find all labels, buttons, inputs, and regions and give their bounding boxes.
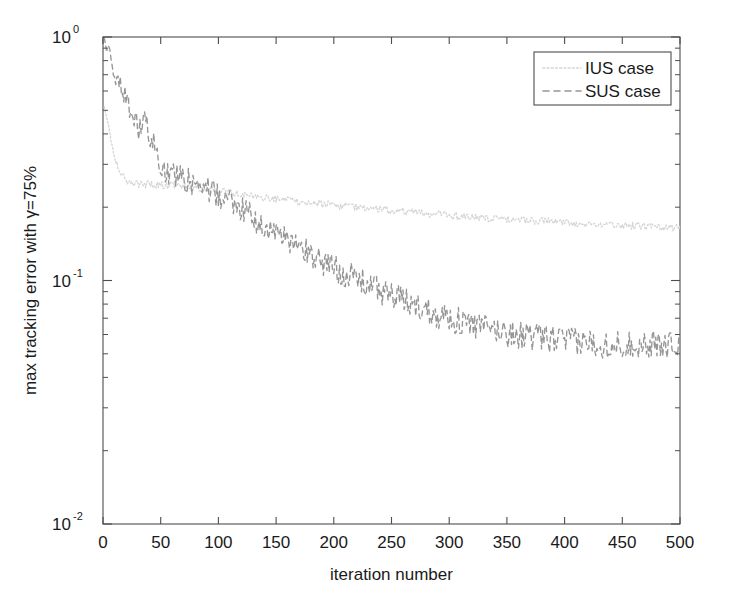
svg-text:-1: -1 <box>73 267 83 279</box>
svg-text:10: 10 <box>52 515 71 534</box>
y-axis-title: max tracking error with γ=75% <box>21 166 40 395</box>
figure-container: 05010015020025030035040045050010010-110-… <box>0 0 729 604</box>
x-tick-label: 350 <box>493 533 521 552</box>
x-tick-label: 450 <box>608 533 636 552</box>
x-tick-label: 500 <box>666 533 694 552</box>
legend-label-ius: IUS case <box>585 59 654 78</box>
axes-frame <box>103 37 680 524</box>
legend-label-sus: SUS case <box>585 82 661 101</box>
svg-text:10: 10 <box>52 272 71 291</box>
x-tick-label: 100 <box>204 533 232 552</box>
x-tick-label: 200 <box>320 533 348 552</box>
axis-ticks-layer <box>103 37 680 524</box>
y-tick-label: 10-1 <box>52 267 83 291</box>
y-tick-label: 10-2 <box>52 510 83 534</box>
svg-text:-2: -2 <box>73 510 83 522</box>
svg-text:10: 10 <box>52 28 71 47</box>
x-tick-label: 0 <box>98 533 107 552</box>
x-tick-label: 250 <box>377 533 405 552</box>
y-tick-label: 100 <box>52 23 79 47</box>
svg-text:0: 0 <box>73 23 79 35</box>
series-line-ius <box>104 107 680 231</box>
chart-canvas: 05010015020025030035040045050010010-110-… <box>0 0 729 604</box>
x-tick-label: 50 <box>151 533 170 552</box>
x-tick-label: 150 <box>262 533 290 552</box>
x-axis-title: iteration number <box>330 565 453 584</box>
x-tick-label: 400 <box>550 533 578 552</box>
x-tick-label: 300 <box>435 533 463 552</box>
legend[interactable]: IUS caseSUS case <box>534 52 671 105</box>
axis-labels-layer: 05010015020025030035040045050010010-110-… <box>21 23 694 584</box>
